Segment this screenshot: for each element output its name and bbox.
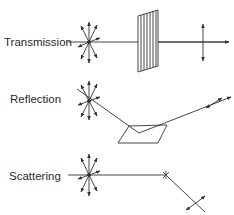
reflected-beam bbox=[139, 97, 231, 133]
polarization-marks-icon bbox=[186, 196, 205, 210]
scattering-row bbox=[68, 154, 205, 212]
reflecting-surface-icon bbox=[118, 125, 167, 143]
scattered-beam bbox=[168, 177, 205, 212]
unpolarized-light-icon bbox=[78, 81, 100, 120]
unpolarized-light-icon bbox=[78, 22, 100, 63]
transmission-row bbox=[68, 10, 229, 72]
reflection-row bbox=[77, 81, 231, 143]
polarizer-stack-icon bbox=[138, 10, 158, 72]
polarization-marks-icon bbox=[206, 98, 222, 108]
polarization-diagram bbox=[0, 0, 234, 215]
